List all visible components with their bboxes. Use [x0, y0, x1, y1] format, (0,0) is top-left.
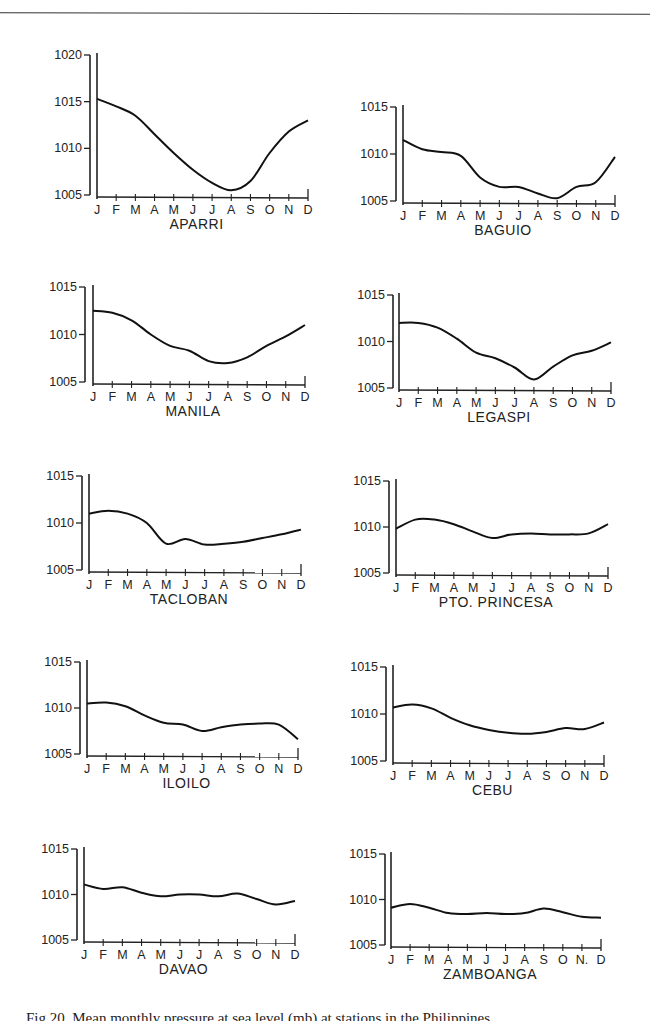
x-tick-label: F — [104, 578, 112, 592]
y-tick-label: 1005 — [46, 563, 74, 577]
y-tick-label: 1005 — [360, 194, 388, 208]
x-tick-label: A — [534, 209, 543, 223]
x-tick-label: A — [453, 396, 462, 410]
x-tick-label: D — [610, 209, 619, 223]
x-tick-label: M — [465, 769, 475, 783]
x-tick-label: S — [549, 396, 557, 410]
station-chart: 100510101015JFMAMJJASONDBAGUIO — [360, 100, 619, 238]
x-tick-label: O — [572, 209, 582, 223]
station-chart: 100510101015JFMAMJJASONDCEBU — [350, 660, 608, 798]
x-tick-label: J — [502, 953, 508, 967]
x-tick-label: M — [424, 953, 434, 967]
x-tick-label: N — [591, 209, 600, 223]
x-tick-label: A — [444, 953, 453, 967]
pressure-curve — [393, 705, 604, 734]
station-name: LEGASPI — [467, 409, 530, 425]
x-tick-label: M — [156, 948, 166, 962]
x-tick-label: O — [265, 203, 275, 217]
station-name: ZAMBOANGA — [443, 966, 537, 982]
y-tick-label: 1010 — [349, 893, 377, 907]
x-tick-label: A — [457, 209, 466, 223]
x-tick-label: A — [530, 396, 539, 410]
x-tick-label: F — [418, 209, 426, 223]
y-tick-label: 1015 — [350, 660, 378, 674]
chart-grid: 1005101010151020JFMAMJJASONDAPARRI100510… — [0, 0, 650, 1000]
station-chart: 100510101015JFMAMJJASONDPTO. PRINCESA — [353, 474, 612, 610]
x-tick-label: J — [81, 948, 87, 962]
y-tick-label: 1010 — [353, 520, 381, 534]
x-tick-label: J — [202, 578, 208, 592]
x-tick-label: J — [177, 948, 183, 962]
figure-caption: Fig.20. Mean monthly pressure at sea lev… — [26, 1006, 636, 1021]
x-tick-label: D — [293, 762, 302, 776]
x-tick-label: J — [388, 953, 394, 967]
x-tick-label: M — [426, 769, 436, 783]
x-axis — [396, 575, 608, 576]
y-tick-label: 1015 — [41, 842, 69, 856]
x-tick-label: O — [255, 762, 265, 776]
x-tick-label: S — [246, 203, 254, 217]
x-tick-label: D — [606, 396, 615, 410]
x-tick-label: J — [182, 578, 188, 592]
x-tick-label: M — [161, 578, 171, 592]
x-tick-label: A — [227, 203, 236, 217]
pressure-curve — [396, 519, 608, 538]
x-tick-label: S — [239, 578, 247, 592]
x-axis — [93, 384, 305, 385]
x-tick-label: N — [587, 396, 596, 410]
y-tick-label: 1015 — [349, 847, 377, 861]
x-tick-label: M — [432, 396, 442, 410]
x-tick-label: A — [224, 390, 233, 404]
y-tick-label: 1015 — [44, 655, 72, 669]
x-tick-label: N — [277, 578, 286, 592]
station-chart: 100510101015JFMAMJJASONDILOILO — [44, 655, 302, 791]
x-tick-label: A — [147, 390, 156, 404]
x-tick-label: S — [540, 953, 548, 967]
x-tick-label: A — [150, 203, 159, 217]
station-name: BAGUIO — [474, 222, 531, 238]
y-tick-label: 1015 — [360, 100, 388, 114]
station-name: CEBU — [472, 782, 513, 798]
x-tick-label: M — [462, 953, 472, 967]
pressure-curve — [84, 885, 295, 905]
x-tick-label: D — [300, 390, 309, 404]
x-tick-label: J — [492, 396, 498, 410]
pressure-curve — [403, 140, 615, 198]
x-tick-label: J — [512, 396, 518, 410]
y-tick-label: 1005 — [44, 747, 72, 761]
y-tick-label: 1010 — [49, 328, 77, 342]
x-tick-label: J — [393, 581, 399, 595]
x-tick-label: J — [516, 209, 522, 223]
x-tick-label: M — [120, 762, 130, 776]
x-tick-label: F — [112, 203, 120, 217]
x-tick-label: S — [243, 390, 251, 404]
x-tick-label: D — [599, 769, 608, 783]
y-tick-label: 1005 — [41, 933, 69, 947]
x-tick-label: F — [408, 769, 416, 783]
x-tick-label: F — [411, 581, 419, 595]
station-chart: 100510101015JFMAMJJASONDTACLOBAN — [46, 469, 305, 607]
x-tick-label: S — [553, 209, 561, 223]
pressure-curve — [87, 702, 298, 739]
x-tick-label: A — [523, 769, 532, 783]
x-tick-label: J — [486, 769, 492, 783]
x-tick-label: N — [274, 762, 283, 776]
x-tick-label: F — [406, 953, 414, 967]
x-axis — [87, 756, 298, 757]
x-tick-label: J — [509, 581, 515, 595]
y-tick-label: 1015 — [353, 474, 381, 488]
x-tick-label: N — [584, 581, 593, 595]
x-tick-label: N — [281, 390, 290, 404]
y-tick-label: 1015 — [54, 95, 82, 109]
x-tick-label: M — [468, 581, 478, 595]
x-tick-label: A — [520, 953, 529, 967]
x-tick-label: J — [86, 578, 92, 592]
x-tick-label: J — [186, 390, 192, 404]
x-tick-label: M — [169, 203, 179, 217]
x-tick-label: J — [489, 581, 495, 595]
x-tick-label: N. — [576, 953, 589, 967]
x-tick-label: N — [284, 203, 293, 217]
y-tick-label: 1010 — [44, 701, 72, 715]
x-tick-label: S — [542, 769, 550, 783]
x-tick-label: A — [220, 578, 229, 592]
